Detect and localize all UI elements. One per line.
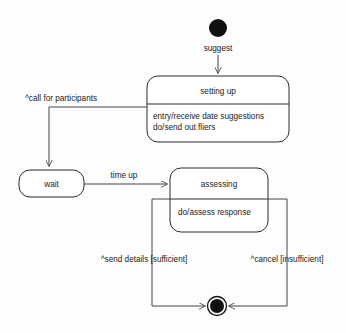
state-assessing-activity-0: do/assess response: [178, 208, 251, 217]
state-wait-title: wait: [43, 180, 59, 189]
state-assessing-box: [170, 168, 268, 232]
state-assessing: assessing do/assess response: [170, 168, 268, 232]
state-setting-up-title: setting up: [200, 87, 236, 96]
transition-label-call-for-participants: ^call for participants: [25, 94, 97, 103]
diagram-canvas: suggest setting up entry/receive date su…: [0, 0, 346, 333]
transition-label-send-details: ^send details [sufficient]: [101, 255, 188, 264]
state-setting-up-activity-0: entry/receive date suggestions: [153, 112, 264, 121]
edge-setting-up-to-wait: [49, 107, 147, 166]
uml-state-diagram: suggest setting up entry/receive date su…: [0, 0, 346, 333]
state-wait: wait: [19, 170, 84, 197]
transition-label-suggest: suggest: [204, 44, 233, 53]
state-assessing-title: assessing: [201, 180, 238, 189]
state-setting-up-box: [147, 76, 289, 142]
initial-state-node: [209, 19, 227, 37]
state-setting-up: setting up entry/receive date suggestion…: [147, 76, 289, 142]
state-setting-up-activity-1: do/send out fliers: [153, 123, 215, 132]
final-state-core: [210, 299, 224, 313]
transition-label-cancel: ^cancel [insufficient]: [251, 255, 324, 264]
transition-label-time-up: time up: [111, 171, 138, 180]
final-state-node: [208, 297, 227, 316]
